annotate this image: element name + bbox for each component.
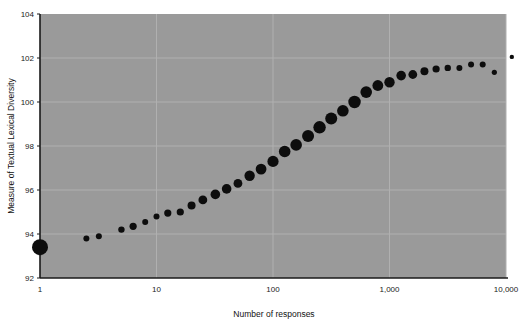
y-tick-label: 104 xyxy=(21,10,35,19)
data-point xyxy=(456,65,462,71)
data-point xyxy=(510,55,514,59)
data-point xyxy=(177,208,184,215)
data-point xyxy=(360,86,372,98)
y-tick-label: 96 xyxy=(25,186,34,195)
data-point xyxy=(279,146,291,158)
data-point xyxy=(211,190,221,200)
x-axis-title: Number of responses xyxy=(233,309,314,319)
y-axis-title: Measure of Textual Lexical Diversity xyxy=(6,78,16,214)
data-point xyxy=(130,223,137,230)
data-point xyxy=(188,201,196,209)
data-point xyxy=(325,113,337,125)
x-tick-label: 10 xyxy=(152,285,161,294)
data-point xyxy=(234,179,243,188)
data-point xyxy=(198,196,207,205)
data-point xyxy=(337,105,349,117)
data-point xyxy=(445,65,451,71)
data-point xyxy=(222,184,232,194)
data-point xyxy=(32,239,48,255)
data-point xyxy=(420,67,428,75)
scatter-plot: 92949698100102104 1101001,00010,000 Numb… xyxy=(0,0,527,325)
data-point xyxy=(433,65,440,72)
x-tick-label: 10,000 xyxy=(494,285,519,294)
y-tick-label: 94 xyxy=(25,230,34,239)
data-point xyxy=(118,226,124,232)
data-point xyxy=(348,96,360,108)
y-tick-label: 92 xyxy=(25,274,34,283)
data-point xyxy=(313,121,325,133)
data-point xyxy=(408,70,417,79)
data-point xyxy=(396,71,406,81)
x-tick-label: 1,000 xyxy=(379,285,400,294)
y-tick-label: 98 xyxy=(25,142,34,151)
data-point xyxy=(372,80,383,91)
data-point xyxy=(492,70,497,75)
data-point xyxy=(154,213,160,219)
data-point xyxy=(290,139,302,151)
x-tick-label: 100 xyxy=(266,285,280,294)
data-point xyxy=(96,233,102,239)
y-tick-label: 102 xyxy=(21,54,35,63)
data-point xyxy=(244,171,254,181)
data-point xyxy=(468,62,474,68)
data-point xyxy=(267,156,278,167)
x-tick-label: 1 xyxy=(38,285,43,294)
chart-figure: 92949698100102104 1101001,00010,000 Numb… xyxy=(0,0,527,325)
data-point xyxy=(83,235,89,241)
data-point xyxy=(302,130,314,142)
data-point xyxy=(142,219,148,225)
y-tick-label: 100 xyxy=(21,98,35,107)
data-point xyxy=(164,210,171,217)
data-point xyxy=(256,164,267,175)
data-point xyxy=(384,77,394,87)
data-point xyxy=(480,62,486,68)
